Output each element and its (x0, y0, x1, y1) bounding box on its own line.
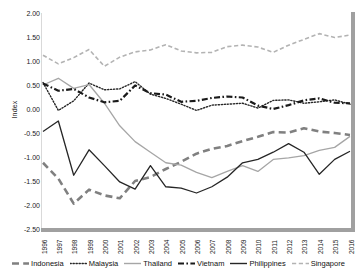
x-axis-tick-label: 2012 (286, 240, 293, 254)
legend-line-swatch-icon (230, 260, 247, 267)
legend-line-swatch-icon (292, 260, 309, 267)
y-axis-tick-label: -1.50 (6, 178, 40, 185)
series-line-vietnam (43, 84, 350, 109)
right-axis-line (351, 12, 355, 232)
y-axis-tick-label: -2.00 (6, 202, 40, 209)
x-axis-tick-label: 2010 (255, 240, 262, 254)
x-axis-tick-label: 1998 (71, 240, 78, 254)
y-axis-ticks: 2.001.501.000.500.00-0.50-1.00-1.50-2.00… (0, 0, 40, 232)
y-axis-tick-label: 0.00 (6, 106, 40, 113)
y-axis-tick-label: -0.50 (6, 130, 40, 137)
chart-legend: IndonesiaMalaysiaThailandVietnamPhilippi… (0, 256, 357, 270)
legend-item-malaysia[interactable]: Malaysia (70, 259, 119, 268)
legend-item-vietnam[interactable]: Vietnam (178, 259, 224, 268)
x-axis-tick-label: 2005 (179, 240, 186, 254)
x-axis-tick-label: 2011 (271, 240, 278, 254)
x-axis-tick-label: 1997 (56, 240, 63, 254)
x-axis-tick-label: 2001 (117, 240, 124, 254)
x-axis-line (41, 228, 355, 232)
x-axis-tick-label: 2008 (225, 240, 232, 254)
legend-label: Thailand (143, 259, 172, 268)
series-line-malaysia (43, 82, 350, 111)
x-axis-ticks: 1996199719981999200020012002200320042005… (41, 233, 352, 255)
x-axis-tick-label: 1996 (41, 240, 48, 254)
line-chart: Index 2.001.501.000.500.00-0.50-1.00-1.5… (0, 0, 357, 272)
x-axis-tick-label: 2006 (194, 240, 201, 254)
legend-label: Vietnam (197, 259, 224, 268)
series-line-philippines (43, 121, 350, 193)
chart-series-canvas (41, 13, 352, 233)
x-axis-tick-label: 2007 (209, 240, 216, 254)
legend-label: Indonesia (31, 259, 64, 268)
legend-line-swatch-icon (124, 260, 141, 267)
legend-label: Malaysia (89, 259, 119, 268)
legend-line-swatch-icon (12, 260, 29, 267)
x-axis-tick-label: 2015 (332, 240, 339, 254)
series-line-indonesia (43, 128, 350, 203)
legend-line-swatch-icon (178, 260, 195, 267)
legend-item-indonesia[interactable]: Indonesia (12, 259, 64, 268)
legend-line-swatch-icon (70, 260, 87, 267)
y-axis-tick-label: 0.50 (6, 82, 40, 89)
legend-item-philippines[interactable]: Philippines (230, 259, 285, 268)
y-axis-tick-label: 1.00 (6, 58, 40, 65)
x-axis-tick-label: 2014 (317, 240, 324, 254)
y-axis-tick-label: 1.50 (6, 34, 40, 41)
legend-label: Singapore (311, 259, 345, 268)
x-axis-tick-label: 2002 (133, 240, 140, 254)
legend-item-singapore[interactable]: Singapore (292, 259, 345, 268)
plot-area (41, 13, 352, 229)
series-line-singapore (43, 34, 350, 67)
x-axis-tick-label: 2013 (301, 240, 308, 254)
x-axis-tick-label: 2000 (102, 240, 109, 254)
x-axis-tick-label: 2009 (240, 240, 247, 254)
legend-item-thailand[interactable]: Thailand (124, 259, 172, 268)
x-axis-tick-label: 2016 (348, 240, 355, 254)
y-axis-tick-label: 2.00 (6, 10, 40, 17)
x-axis-tick-label: 2003 (148, 240, 155, 254)
y-axis-tick-label: -2.50 (6, 226, 40, 233)
legend-label: Philippines (249, 259, 285, 268)
y-axis-tick-label: -1.00 (6, 154, 40, 161)
x-axis-tick-label: 2004 (163, 240, 170, 254)
x-axis-tick-label: 1999 (87, 240, 94, 254)
